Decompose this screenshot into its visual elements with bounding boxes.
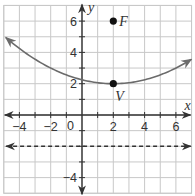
origin-label: 0 (67, 119, 74, 133)
point-label-f: F (118, 14, 128, 29)
point-f (110, 18, 117, 25)
x-tick-label: −2 (44, 120, 58, 134)
point-v (110, 80, 117, 87)
x-tick-label: 4 (141, 120, 148, 134)
y-tick-label: 4 (70, 46, 77, 60)
point-label-v: V (115, 89, 125, 104)
x-tick-label: 6 (172, 120, 179, 134)
coordinate-graph: −4−2246−42460xy FV (0, 0, 195, 196)
x-tick-label: 2 (110, 120, 117, 134)
x-axis-label: x (184, 98, 192, 113)
y-tick-label: 2 (70, 77, 77, 91)
y-axis-label: y (86, 0, 95, 15)
y-tick-label: 6 (70, 15, 77, 29)
x-tick-label: −4 (12, 120, 26, 134)
y-tick-label: −4 (63, 171, 77, 185)
